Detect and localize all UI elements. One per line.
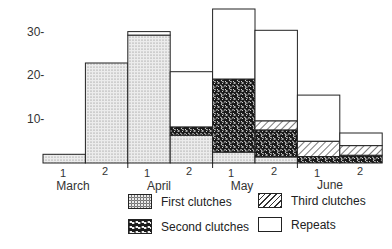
stacked-bar-chart: 30- 20- 10- 1 2 1 2 1 2 1 2 March April … bbox=[0, 0, 392, 249]
bar-segment bbox=[255, 121, 297, 130]
x-period-label: 1 bbox=[127, 167, 167, 179]
legend-second-clutches: Second clutches bbox=[128, 219, 249, 234]
month-label-march: March bbox=[43, 179, 103, 193]
bar-segment bbox=[297, 141, 339, 156]
month-label-june: June bbox=[300, 178, 360, 192]
bar-segment bbox=[213, 79, 255, 152]
bar-segment bbox=[340, 155, 382, 163]
stipple-swatch-icon bbox=[128, 194, 152, 209]
legend-third-clutches: Third clutches bbox=[258, 193, 366, 208]
bar-segment bbox=[85, 63, 127, 163]
bar-segment bbox=[43, 154, 85, 163]
y-tick-30: 30- bbox=[27, 25, 44, 39]
bar-segment bbox=[297, 157, 339, 164]
bar-segment bbox=[170, 72, 212, 127]
bar-segment bbox=[128, 35, 170, 163]
legend-repeats: Repeats bbox=[258, 217, 336, 232]
y-tick-20: 20- bbox=[27, 68, 44, 82]
bar-segment bbox=[255, 30, 297, 121]
chart-plot-area bbox=[0, 0, 392, 249]
month-label-may: May bbox=[212, 179, 272, 193]
x-period-label: 2 bbox=[85, 165, 125, 177]
x-period-label: 2 bbox=[254, 165, 294, 177]
bar-segment bbox=[255, 157, 297, 163]
x-period-label: 1 bbox=[43, 167, 83, 179]
blank-swatch-icon bbox=[258, 217, 282, 232]
bar-segment bbox=[340, 146, 382, 156]
x-period-label: 2 bbox=[169, 165, 209, 177]
bar-segment bbox=[297, 95, 339, 141]
legend-first-clutches: First clutches bbox=[128, 194, 232, 209]
x-period-label: 2 bbox=[340, 165, 380, 177]
bar-segment bbox=[213, 9, 255, 79]
bar-segment bbox=[255, 130, 297, 157]
bar-segment bbox=[340, 133, 382, 146]
hatched-swatch-icon bbox=[258, 193, 282, 208]
x-period-label: 1 bbox=[211, 167, 251, 179]
y-tick-10: 10- bbox=[27, 112, 44, 126]
month-label-april: April bbox=[129, 179, 189, 193]
bar-segment bbox=[170, 127, 212, 135]
mottled-swatch-icon bbox=[128, 219, 152, 234]
bar-segment bbox=[128, 32, 170, 35]
bar-segment bbox=[170, 135, 212, 163]
bar-segment bbox=[213, 152, 255, 163]
